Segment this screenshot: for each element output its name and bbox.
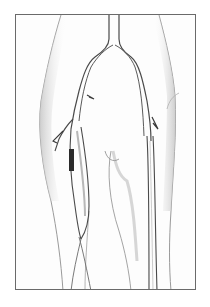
illustration-frame bbox=[15, 14, 196, 290]
aorta-bifurcation bbox=[71, 15, 158, 141]
occlusion-segment bbox=[69, 149, 74, 171]
right-femoral-artery bbox=[147, 136, 157, 290]
leg-outline-right bbox=[153, 15, 179, 290]
inner-leg-shading bbox=[105, 151, 137, 290]
anatomy-illustration bbox=[16, 15, 196, 290]
bypass-graft bbox=[53, 119, 91, 290]
